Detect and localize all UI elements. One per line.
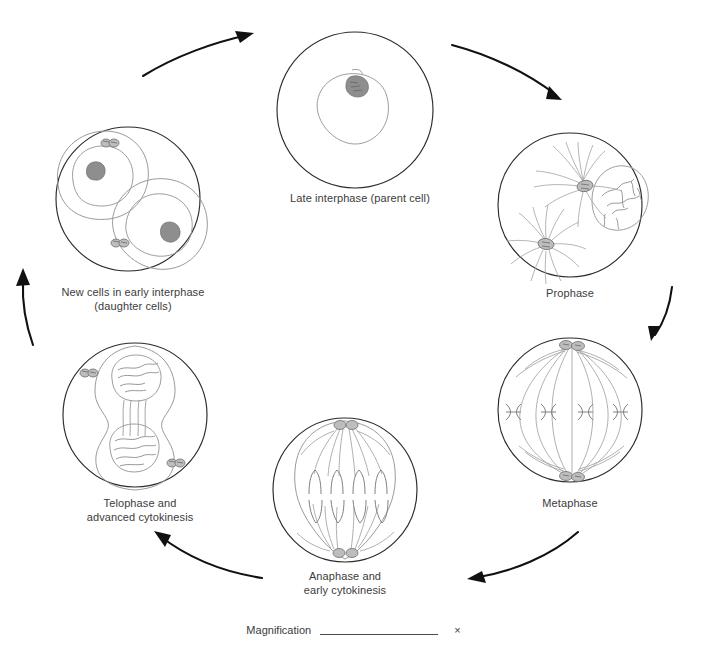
anaphase-furrow-left (295, 421, 345, 559)
anaphase-centrosome-top-right (346, 421, 358, 430)
arrow-daughter-to-parent (143, 31, 254, 76)
stage-label-late-interphase: Late interphase (parent cell) (240, 192, 480, 206)
stage-label-telophase: Telophase and advanced cytokinesis (45, 497, 235, 524)
stage-metaphase (498, 338, 642, 482)
metaphase-centrosome-bottom-left (560, 472, 573, 481)
arrow-metaphase-to-anaphase (467, 532, 578, 583)
anaphase-cell-membrane (273, 418, 417, 562)
stage-label-metaphase: Metaphase (500, 497, 640, 511)
arrow-parent-to-prophase (452, 45, 562, 100)
metaphase-chromosomes (506, 404, 628, 420)
stage-daughter-cells (56, 127, 207, 271)
daughter-cell-b-nucleolus (160, 222, 180, 242)
prophase-nuclear-envelope (592, 166, 648, 230)
magnification-unit: × (454, 624, 460, 636)
prophase-centrosome-upper (576, 179, 594, 193)
stage-telophase (63, 343, 207, 490)
magnification-label: Magnification (246, 624, 311, 636)
stage-prophase (498, 133, 648, 284)
telophase-midbody-fibers (123, 400, 146, 436)
anaphase-centrosome-bottom-right (346, 549, 358, 558)
daughter-cell-a-nucleolus (86, 162, 105, 180)
telophase-nucleus-upper (112, 355, 161, 401)
metaphase-spindle (516, 348, 627, 473)
magnification-blank-line[interactable] (320, 634, 438, 635)
telophase-centriole-pair-upper (80, 369, 98, 377)
magnification-row: Magnification × (0, 624, 707, 636)
arrow-prophase-to-metaphase (648, 287, 672, 341)
daughter-cell-a-centriole-pair (101, 139, 119, 147)
parent-cell-membrane (277, 32, 433, 188)
metaphase-centrosome-bottom-right (572, 473, 585, 482)
telophase-furrow-right (135, 346, 175, 490)
prophase-cell-membrane (498, 133, 642, 277)
anaphase-centrosome-top-left (334, 421, 346, 430)
cell-cycle-diagram: Late interphase (parent cell) Prophase M… (0, 0, 707, 657)
stage-label-anaphase: Anaphase and early cytokinesis (255, 570, 435, 597)
anaphase-chromatids (309, 470, 388, 523)
diagram-canvas (0, 0, 707, 657)
prophase-chromosomes (602, 179, 642, 229)
telophase-cell-membrane (63, 343, 207, 487)
telophase-chromatin-lower (114, 436, 156, 466)
telophase-chromatin-upper (118, 363, 159, 392)
arrow-anaphase-to-telophase (154, 531, 262, 578)
stage-late-interphase (277, 32, 433, 188)
telophase-centriole-pair-lower (167, 459, 185, 467)
stage-anaphase (273, 418, 417, 562)
anaphase-spindle (297, 428, 394, 551)
metaphase-centrosome-top-right (572, 342, 585, 351)
daughter-cell-b-centriole-pair (111, 239, 129, 247)
metaphase-centrosome-top-left (560, 341, 573, 350)
stage-label-daughter-cells: New cells in early interphase (daughter … (18, 286, 248, 313)
stage-label-prophase: Prophase (500, 287, 640, 301)
anaphase-centrosome-bottom-left (333, 549, 345, 558)
